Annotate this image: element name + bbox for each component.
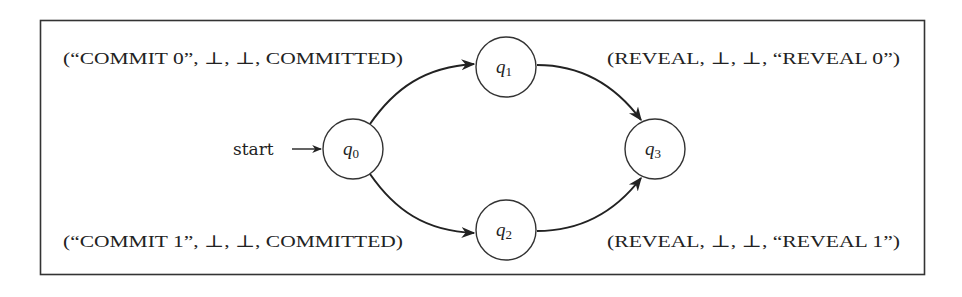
edge-q0-q2 bbox=[370, 174, 474, 233]
start-label: start bbox=[233, 139, 274, 159]
state-q1: q1 bbox=[476, 37, 536, 97]
state-q0: q0 bbox=[323, 119, 383, 179]
automaton-diagram: start q0 q1 q2 q3 (“COMMIT 0”, ⊥, ⊥, COM… bbox=[0, 0, 962, 297]
transition-label-reveal0: (REVEAL, ⊥, ⊥, “REVEAL 0”) bbox=[607, 49, 900, 68]
edge-q0-q1 bbox=[370, 64, 474, 124]
state-q3: q3 bbox=[625, 119, 685, 179]
state-q2: q2 bbox=[476, 200, 536, 260]
edge-q1-q3 bbox=[537, 65, 641, 120]
edge-q2-q3 bbox=[537, 178, 641, 231]
transition-label-reveal1: (REVEAL, ⊥, ⊥, “REVEAL 1”) bbox=[607, 232, 900, 251]
transition-label-commit0: (“COMMIT 0”, ⊥, ⊥, COMMITTED) bbox=[63, 49, 403, 68]
transition-label-commit1: (“COMMIT 1”, ⊥, ⊥, COMMITTED) bbox=[63, 232, 403, 251]
